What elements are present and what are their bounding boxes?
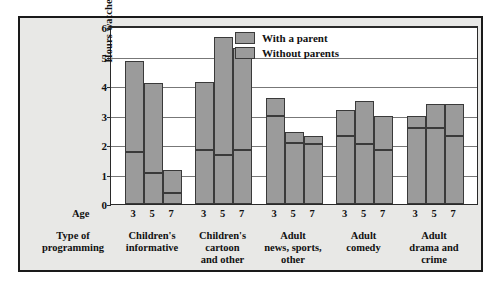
y-axis-tick-mark — [107, 117, 111, 118]
bar — [144, 83, 163, 204]
age-tick-label: 5 — [149, 208, 154, 219]
legend-label: Without parents — [262, 47, 339, 59]
category-label: Adultcomedy — [330, 230, 397, 254]
category-label-line: drama and — [409, 242, 458, 253]
category-label: Adultnews, sports,other — [260, 230, 327, 266]
y-axis-tick-mark — [107, 58, 111, 59]
y-axis-tick-mark — [107, 146, 111, 147]
bar-segment-divider — [336, 135, 355, 137]
age-tick-label: 3 — [412, 208, 417, 219]
age-tick-label: 3 — [201, 208, 206, 219]
legend-item-without-parents: Without parents — [235, 47, 339, 59]
age-tick-label: 7 — [450, 208, 455, 219]
bar-segment-divider — [144, 172, 163, 174]
bar-group — [407, 28, 464, 204]
bar — [304, 136, 323, 204]
category-label-line: Adult — [421, 230, 447, 241]
bar — [285, 132, 304, 204]
age-tick-label: 7 — [239, 208, 244, 219]
bar-segment-divider — [445, 135, 464, 137]
bar — [445, 104, 464, 204]
chart-legend: With a parent Without parents — [235, 32, 339, 62]
age-tick-label: 3 — [342, 208, 347, 219]
bar — [336, 110, 355, 204]
y-axis-tick-mark — [107, 176, 111, 177]
chart-figure: Type of programming Hours watched per we… — [18, 16, 483, 272]
bar-segment-divider — [163, 192, 182, 194]
bar-segment-divider — [266, 115, 285, 117]
category-label-line: other — [281, 254, 305, 265]
category-label: Children'scartoonand other — [189, 230, 256, 266]
bar-segment-divider — [285, 142, 304, 144]
age-tick-label: 5 — [220, 208, 225, 219]
bar — [125, 61, 144, 204]
bar — [163, 170, 182, 204]
bar-group — [125, 28, 182, 204]
category-label-line: crime — [421, 254, 447, 265]
bar-group — [336, 28, 393, 204]
bar-segment-divider — [233, 149, 252, 151]
category-label: Children'sinformative — [119, 230, 186, 254]
category-label-line: Children's — [128, 230, 175, 241]
category-label-line: informative — [126, 242, 179, 253]
category-label-line: Adult — [280, 230, 306, 241]
bar-segment-divider — [355, 143, 374, 145]
x-axis-title: Type of programming — [38, 230, 108, 254]
bar — [266, 98, 285, 204]
age-tick-label: 3 — [271, 208, 276, 219]
age-tick-label: 5 — [431, 208, 436, 219]
category-label-line: Children's — [199, 230, 246, 241]
category-label-line: cartoon — [205, 242, 239, 253]
bar — [355, 101, 374, 204]
age-tick-label: 7 — [168, 208, 173, 219]
age-axis-label: Age — [72, 208, 90, 219]
legend-label: With a parent — [262, 32, 328, 44]
category-label-line: comedy — [346, 242, 380, 253]
category-label-line: news, sports, — [264, 242, 321, 253]
age-tick-label: 3 — [130, 208, 135, 219]
bar-segment-divider — [214, 154, 233, 156]
bar-segment-divider — [407, 127, 426, 129]
legend-swatch-icon — [235, 32, 255, 44]
age-tick-label: 7 — [380, 208, 385, 219]
category-label: Adultdrama andcrime — [401, 230, 468, 266]
bar-segment-divider — [195, 149, 214, 151]
bar — [374, 116, 393, 205]
legend-item-with-a-parent: With a parent — [235, 32, 339, 44]
bar-segment-divider — [125, 151, 144, 153]
y-axis-tick-mark — [107, 205, 111, 206]
bar — [214, 37, 233, 204]
bar-segment-divider — [374, 149, 393, 151]
y-axis-tick-mark — [107, 28, 111, 29]
bar — [407, 116, 426, 205]
age-tick-label: 5 — [361, 208, 366, 219]
age-tick-label: 5 — [290, 208, 295, 219]
age-tick-label: 7 — [309, 208, 314, 219]
category-label-line: and other — [201, 254, 244, 265]
legend-swatch-icon — [235, 47, 255, 59]
bar — [195, 82, 214, 204]
bar-segment-divider — [426, 127, 445, 129]
bar-segment-divider — [304, 143, 323, 145]
bar — [233, 48, 252, 204]
category-label-line: Adult — [351, 230, 377, 241]
bar — [426, 104, 445, 204]
y-axis-tick-mark — [107, 87, 111, 88]
